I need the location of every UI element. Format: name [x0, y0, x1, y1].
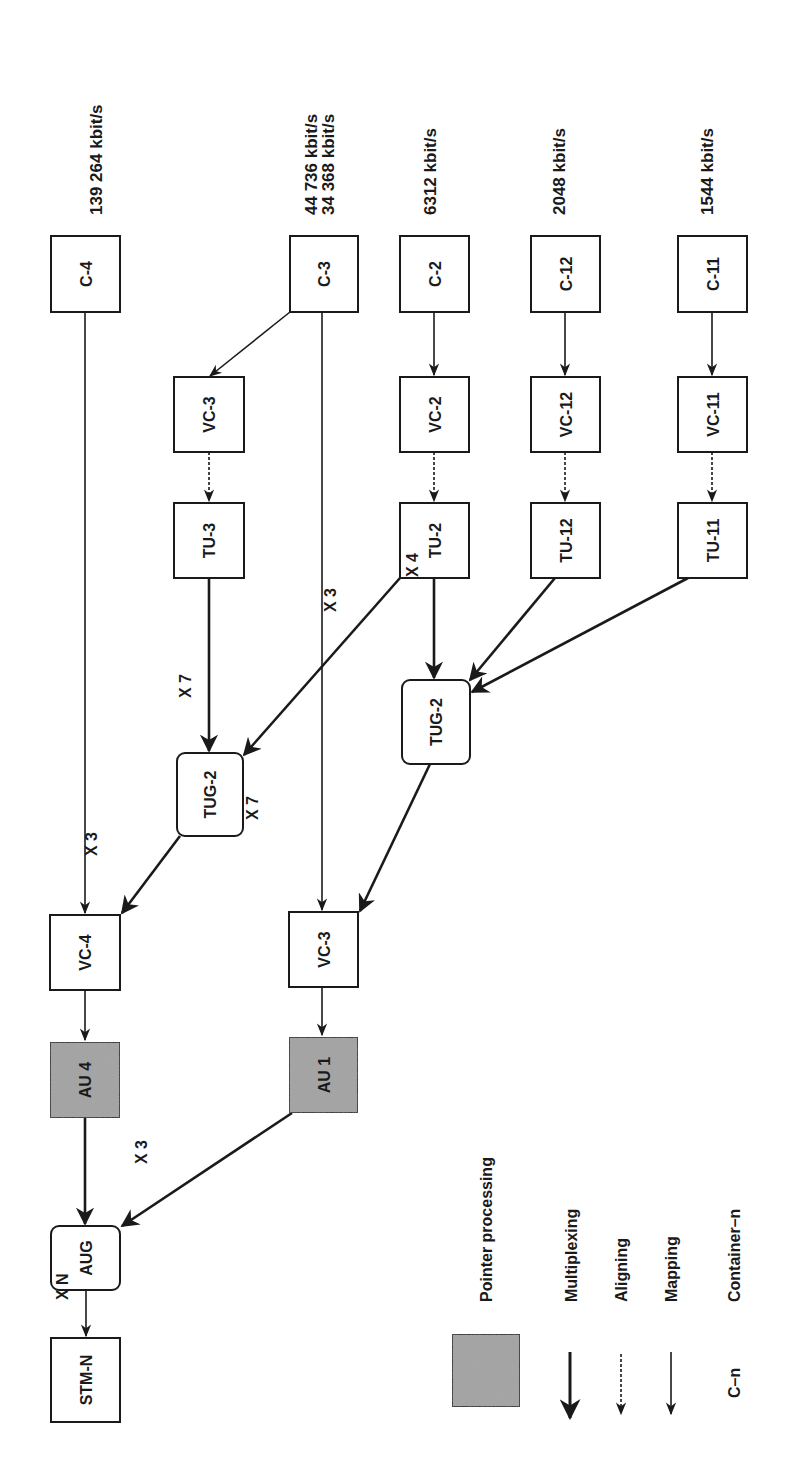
- node-c3: C-3: [290, 236, 358, 312]
- node-label: AU 1: [316, 1057, 333, 1094]
- edge-tu12-to-tug2b-multiplexing: [470, 578, 555, 680]
- node-c4: C-4: [51, 236, 120, 312]
- node-tug2b: TUG-2: [402, 680, 470, 764]
- node-vc2: VC-2: [400, 377, 469, 452]
- node-label: TUG-2: [428, 698, 445, 746]
- node-au1: AU 1: [289, 1037, 358, 1113]
- legend-container-symbol: C–n: [726, 1368, 743, 1398]
- bit-rate-label: 2048 kbit/s: [550, 128, 569, 215]
- node-vc12: VC-12: [531, 377, 600, 452]
- node-stmn: STM-N: [51, 1338, 120, 1422]
- node-label: AUG: [78, 1240, 95, 1276]
- edge-tug2b-to-vc3b-multiplexing: [360, 764, 430, 911]
- node-label: VC-12: [558, 392, 575, 437]
- node-label: TUG-2: [202, 770, 219, 818]
- node-label: VC-11: [705, 392, 722, 437]
- node-label: TU-11: [705, 519, 722, 563]
- legend-container-label: Container–n: [726, 1209, 743, 1302]
- node-tug2a: TUG-2: [177, 753, 243, 836]
- node-label: C-12: [558, 257, 575, 292]
- node-label: VC-2: [427, 396, 444, 433]
- legend-mapping-label: Mapping: [663, 1236, 680, 1302]
- node-c2: C-2: [400, 236, 469, 312]
- multiplex-factor-label: X 3: [83, 832, 100, 856]
- node-c12: C-12: [531, 236, 600, 312]
- node-label: C-2: [427, 261, 444, 287]
- edge-c3-to-vc3a-mapping: [210, 312, 290, 376]
- legend-pointer-swatch: [452, 1334, 520, 1407]
- node-label: VC-4: [77, 934, 94, 971]
- node-tu12: TU-12: [531, 503, 600, 578]
- node-vc4: VC-4: [50, 915, 120, 990]
- node-label: TU-3: [201, 523, 218, 559]
- edge-tu11-to-tug2b-multiplexing: [472, 578, 688, 692]
- node-label: VC-3: [201, 396, 218, 433]
- multiplex-factor-label: X 4: [404, 553, 421, 577]
- node-label: STM-N: [78, 1355, 95, 1406]
- edge-tug2a-to-vc4-multiplexing: [122, 836, 180, 913]
- node-label: TU-2: [427, 523, 444, 559]
- legend: Pointer processing Multiplexing Aligning…: [452, 1157, 743, 1418]
- node-label: VC-3: [316, 931, 333, 968]
- node-tu11: TU-11: [678, 503, 747, 578]
- node-label: AU 4: [77, 1062, 94, 1099]
- node-label: C-3: [316, 261, 333, 287]
- bit-rate-label: 6312 kbit/s: [421, 128, 440, 215]
- multiplex-factor-label: X 3: [133, 1140, 150, 1164]
- node-label: C-11: [705, 257, 722, 291]
- bit-rate-label: 139 264 kbit/s: [87, 104, 106, 215]
- multiplex-factor-label: X N: [54, 1273, 71, 1300]
- node-tu3: TU-3: [174, 503, 244, 578]
- multiplex-factor-label: X 3: [322, 588, 339, 612]
- node-vc11: VC-11: [678, 377, 747, 452]
- edge-au1-to-aug-multiplexing: [122, 1113, 292, 1226]
- multiplex-factor-label: X 7: [244, 796, 261, 820]
- legend-aligning-label: Aligning: [613, 1238, 630, 1302]
- node-label: TU-12: [558, 518, 575, 563]
- bit-rate-label: 1544 kbit/s: [698, 128, 717, 215]
- multiplex-factor-label: X 7: [177, 674, 194, 698]
- bit-rate-label: 34 368 kbit/s: [319, 114, 338, 215]
- legend-multiplexing-label: Multiplexing: [563, 1209, 580, 1302]
- node-vc3b: VC-3: [289, 912, 358, 987]
- node-vc3a: VC-3: [174, 377, 244, 452]
- sdh-multiplexing-diagram: C-4C-3C-2C-12C-11VC-3VC-2VC-12VC-11TU-3T…: [0, 0, 792, 1480]
- node-label: C-4: [78, 261, 95, 287]
- node-c11: C-11: [678, 236, 747, 312]
- legend-pointer-label: Pointer processing: [478, 1157, 495, 1302]
- rate-labels-layer: 139 264 kbit/s44 736 kbit/s34 368 kbit/s…: [87, 104, 717, 215]
- node-au4: AU 4: [50, 1042, 120, 1118]
